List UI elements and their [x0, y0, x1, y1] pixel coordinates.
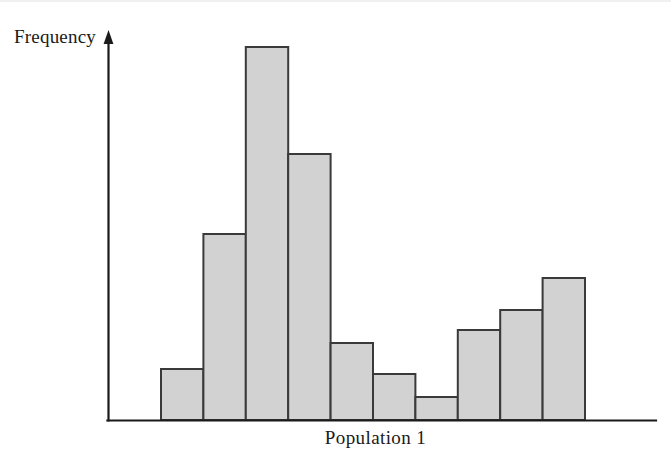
histogram-bar	[500, 310, 542, 420]
histogram-bar	[373, 374, 415, 420]
x-axis-title-wrapper: Population 1	[0, 428, 671, 447]
histogram-bar	[288, 154, 330, 420]
y-axis-title: Frequency	[14, 27, 96, 46]
plot-area: Frequency Population 1	[0, 0, 671, 456]
y-axis-arrow-icon	[104, 30, 114, 44]
histogram-bar	[246, 47, 288, 420]
x-axis-title: Population 1	[325, 427, 426, 448]
histogram-bar	[203, 234, 245, 420]
histogram-bar	[161, 369, 203, 420]
histogram-bar	[458, 330, 500, 420]
histogram-bar	[331, 343, 373, 420]
histogram-bar	[543, 278, 585, 420]
histogram-canvas	[0, 0, 671, 456]
bars-group	[161, 47, 585, 420]
histogram-bar	[415, 397, 457, 420]
histogram-figure: Frequency Population 1	[0, 0, 671, 456]
